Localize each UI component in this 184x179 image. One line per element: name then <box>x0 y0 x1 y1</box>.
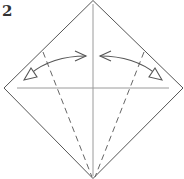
left-valley-fold-line <box>43 52 92 177</box>
left-fold-unfold-arrow-icon <box>24 51 86 80</box>
origami-diagram <box>0 0 184 179</box>
right-valley-fold-line <box>95 52 144 177</box>
right-fold-unfold-arrow-icon <box>100 51 162 80</box>
